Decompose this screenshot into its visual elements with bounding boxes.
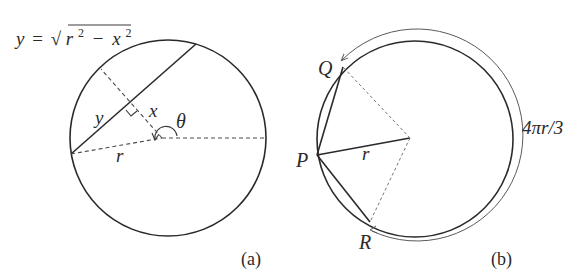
formula-minus: −	[93, 28, 104, 49]
formula-x: x	[111, 28, 121, 49]
figure-a: y = √ r 2 − x 2 y x θ r (a)	[14, 20, 267, 270]
radius-r-dashed	[370, 138, 410, 222]
formula-r: r	[66, 28, 74, 49]
point-p-label: P	[295, 149, 308, 171]
arc-length-label: 4πr/3	[522, 117, 563, 138]
formula-sqrt-sign: √	[51, 28, 62, 49]
caption-b: (b)	[491, 249, 512, 270]
label-theta: θ	[176, 110, 186, 132]
label-r-b: r	[362, 143, 370, 164]
point-q-label: Q	[318, 57, 333, 79]
label-x: x	[148, 100, 158, 121]
formula: y = √ r 2 − x 2	[14, 20, 131, 49]
caption-a: (a)	[241, 249, 261, 270]
right-angle-marker	[126, 110, 137, 116]
theta-arc	[155, 126, 177, 139]
circle-b	[317, 41, 513, 237]
formula-equals: =	[32, 28, 43, 49]
radius-q-dashed	[343, 67, 410, 138]
point-r-label: R	[358, 231, 371, 253]
chord-pr	[317, 155, 370, 222]
formula-y: y	[14, 28, 25, 49]
arc-length-arrow	[342, 29, 523, 241]
label-y: y	[93, 107, 104, 128]
formula-r-exponent: 2	[78, 26, 84, 40]
label-r-a: r	[116, 145, 124, 166]
figure-b: Q P R r 4πr/3 (b)	[295, 29, 563, 270]
geometry-figure: y = √ r 2 − x 2 y x θ r (a)	[0, 0, 588, 276]
formula-x-exponent: 2	[125, 26, 131, 40]
